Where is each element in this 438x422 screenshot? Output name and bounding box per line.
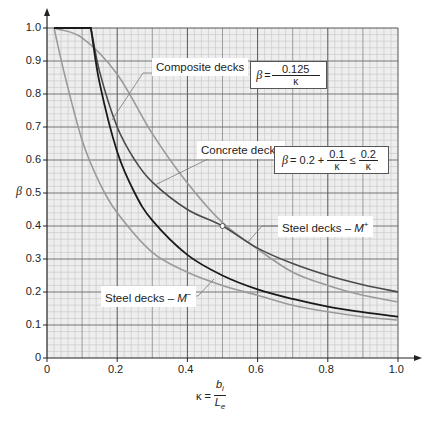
y-axis-label: β xyxy=(16,184,22,199)
y-tick-label: 0.3 xyxy=(26,252,41,264)
steel-decks-mplus-label: Steel decks – M+ xyxy=(278,216,373,237)
steel-minus-m: M xyxy=(177,292,187,304)
y-tick-label: 0.2 xyxy=(26,285,41,297)
y-tick-label: 0 xyxy=(35,351,41,363)
formula-num-1: 0.1 xyxy=(327,148,346,161)
x-axis-label-fraction: bi Le xyxy=(214,378,226,413)
formula-eq: = xyxy=(264,69,270,81)
y-tick-label: 0.1 xyxy=(26,318,41,330)
steel-plus-sup: + xyxy=(364,220,369,229)
formula-eq: = 0.2 + xyxy=(290,154,324,166)
y-tick-label: 0.8 xyxy=(26,87,41,99)
y-tick-label: 0.4 xyxy=(26,219,41,231)
concrete-decks-label: Concrete decks xyxy=(197,141,285,159)
y-axis-arrow-icon xyxy=(44,8,50,16)
x-tick-label: 1.0 xyxy=(389,363,404,375)
x-axis-label: κ = bi Le xyxy=(196,378,229,413)
x-tick-label: 0.4 xyxy=(178,363,193,375)
steel-minus-sup: − xyxy=(187,290,192,299)
formula-fraction-2: 0.2 κ xyxy=(359,148,378,173)
formula-num: 0.125 xyxy=(272,63,320,76)
formula-beta: β xyxy=(282,153,288,168)
x-axis-label-kappa: κ = xyxy=(196,390,211,402)
steel-minus-prefix: Steel decks – xyxy=(105,292,177,304)
y-tick-label: 0.6 xyxy=(26,153,41,165)
x-num-sub: i xyxy=(222,384,224,393)
x-tick-label: 0.8 xyxy=(319,363,334,375)
composite-decks-label: Composite decks xyxy=(152,58,248,76)
formula-le: ≤ xyxy=(350,154,356,166)
y-tick-label: 0.7 xyxy=(26,120,41,132)
formula-fraction-1: 0.1 κ xyxy=(327,148,346,173)
steel-decks-mminus-label: Steel decks – M− xyxy=(101,286,196,307)
x-den-sub: e xyxy=(221,402,225,411)
y-tick-label: 0.5 xyxy=(26,186,41,198)
steel-plus-m: M xyxy=(354,222,364,234)
steel-plus-prefix: Steel decks – xyxy=(282,222,354,234)
formula-beta: β xyxy=(256,68,262,83)
formula-fraction: 0.125 κ xyxy=(274,63,318,88)
y-tick-label: 1.0 xyxy=(26,21,41,33)
x-tick-label: 0.6 xyxy=(248,363,263,375)
formula-num-2: 0.2 xyxy=(359,148,378,161)
formula-den: κ xyxy=(293,76,298,88)
intersection-marker-icon xyxy=(220,224,225,229)
y-tick-label: 0.9 xyxy=(26,54,41,66)
formula-den-1: κ xyxy=(334,161,339,173)
x-tick-label: 0.2 xyxy=(108,363,123,375)
concrete-formula-box: β = 0.2 + 0.1 κ ≤ 0.2 κ xyxy=(274,146,389,174)
x-axis-label-den: Le xyxy=(215,396,226,413)
x-axis-arrow-icon xyxy=(414,355,422,361)
formula-den-2: κ xyxy=(366,161,371,173)
x-tick-label: 0 xyxy=(44,363,50,375)
composite-formula-box: β = 0.125 κ xyxy=(250,61,327,89)
x-axis-label-num: bi xyxy=(214,378,226,396)
